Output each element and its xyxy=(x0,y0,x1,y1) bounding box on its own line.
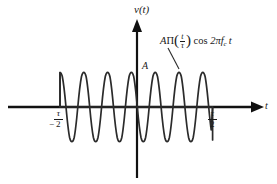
y-axis-label: v(t) xyxy=(134,4,149,15)
formula-frequency-subscript: c xyxy=(224,40,227,48)
formula-close-paren: ) xyxy=(186,32,191,48)
waveform-figure: v(t) t A AΠ(tτ) cos 2πfc t −τ2 τ2 xyxy=(0,0,277,184)
formula-argument-fraction: tτ xyxy=(180,33,186,51)
formula-open-paren: ( xyxy=(174,32,179,48)
x-tick-right-fraction: τ2 xyxy=(208,109,217,130)
amplitude-label: A xyxy=(142,61,148,71)
formula-arg-denominator: τ xyxy=(180,42,186,50)
x-tick-left-fraction: τ2 xyxy=(54,109,63,130)
formula-rect-function-symbol: Π xyxy=(166,35,174,46)
x-axis-arrowhead xyxy=(251,102,264,113)
formula-cos-operator: cos xyxy=(194,35,208,46)
formula-leader-line xyxy=(168,48,179,69)
x-axis-label: t xyxy=(265,101,268,111)
formula-time-symbol: t xyxy=(229,35,232,46)
waveform-plot-svg xyxy=(0,0,277,184)
y-axis-arrowhead xyxy=(132,19,142,32)
x-tick-left-denominator: 2 xyxy=(54,120,63,130)
formula-annotation: AΠ(tτ) cos 2πfc t xyxy=(160,33,232,51)
x-tick-label-right: τ2 xyxy=(208,109,217,130)
x-tick-label-left: −τ2 xyxy=(49,109,63,130)
x-tick-right-denominator: 2 xyxy=(208,120,217,130)
